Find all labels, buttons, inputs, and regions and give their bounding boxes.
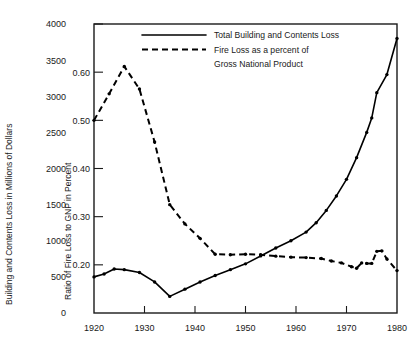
data-point bbox=[304, 256, 307, 259]
data-point bbox=[370, 116, 373, 119]
data-point bbox=[335, 194, 338, 197]
chart-legend: Total Building and Contents LossFire Los… bbox=[142, 30, 339, 69]
data-point bbox=[365, 262, 368, 265]
data-point bbox=[92, 119, 95, 122]
x-axis-ticks: 1920193019401950196019701980 bbox=[84, 323, 407, 333]
fire-loss-chart: Building and Contents Loss in Millions o… bbox=[0, 0, 409, 347]
data-point bbox=[360, 261, 363, 264]
data-point bbox=[214, 253, 217, 256]
y-tick-label-left: 0 bbox=[61, 308, 66, 318]
data-point bbox=[304, 230, 307, 233]
x-tick-label: 1950 bbox=[235, 323, 255, 333]
data-point bbox=[123, 268, 126, 271]
data-point bbox=[214, 274, 217, 277]
y-axis-ticks-left: 05001000150020002500300035004000 bbox=[46, 19, 66, 318]
data-point bbox=[153, 280, 156, 283]
data-point bbox=[107, 92, 110, 95]
data-point bbox=[113, 267, 116, 270]
data-point bbox=[168, 295, 171, 298]
data-point bbox=[375, 91, 378, 94]
data-point bbox=[198, 237, 201, 240]
data-point bbox=[365, 131, 368, 134]
y-tick-label-left: 2000 bbox=[46, 164, 66, 174]
data-point bbox=[395, 37, 398, 40]
y-tick-label-left: 4000 bbox=[46, 19, 66, 29]
data-point bbox=[345, 178, 348, 181]
y-axis-tickmarks-right bbox=[94, 24, 103, 265]
x-axis-tickmarks bbox=[145, 306, 347, 313]
y-tick-label-left: 1500 bbox=[46, 200, 66, 210]
legend-label: Fire Loss as a percent of bbox=[214, 45, 309, 55]
x-tick-label: 1970 bbox=[336, 323, 356, 333]
data-point bbox=[102, 272, 105, 275]
y-tick-label-left: 2500 bbox=[46, 128, 66, 138]
data-point bbox=[244, 253, 247, 256]
data-point bbox=[340, 261, 343, 264]
y-tick-label-left: 3000 bbox=[46, 92, 66, 102]
y-tick-label-right: 0.40 bbox=[72, 164, 90, 174]
data-point bbox=[395, 269, 398, 272]
data-point bbox=[355, 267, 358, 270]
y-tick-label-left: 3500 bbox=[46, 56, 66, 66]
legend-label: Gross National Product bbox=[214, 59, 303, 69]
legend-label: Total Building and Contents Loss bbox=[214, 30, 339, 40]
y-tick-label-right: 0.30 bbox=[72, 212, 90, 222]
data-point bbox=[183, 222, 186, 225]
data-point bbox=[168, 203, 171, 206]
data-point bbox=[274, 246, 277, 249]
data-point bbox=[229, 268, 232, 271]
x-tick-label: 1940 bbox=[185, 323, 205, 333]
data-point bbox=[385, 257, 388, 260]
x-tick-label: 1930 bbox=[134, 323, 154, 333]
series-line-total-building-contents-loss bbox=[94, 38, 397, 296]
y-tick-label-right: 0.50 bbox=[72, 116, 90, 126]
data-point bbox=[244, 262, 247, 265]
data-point bbox=[375, 250, 378, 253]
y-axis-label-left: Building and Contents Loss in Millions o… bbox=[4, 124, 14, 305]
data-point bbox=[153, 140, 156, 143]
x-tick-label: 1980 bbox=[387, 323, 407, 333]
data-point bbox=[350, 265, 353, 268]
data-point bbox=[385, 73, 388, 76]
data-point bbox=[289, 255, 292, 258]
x-tick-label: 1920 bbox=[84, 323, 104, 333]
data-point bbox=[380, 249, 383, 252]
series-layer bbox=[92, 37, 398, 298]
data-point bbox=[138, 87, 141, 90]
data-point bbox=[259, 253, 262, 256]
data-point bbox=[330, 259, 333, 262]
data-point bbox=[315, 221, 318, 224]
data-point bbox=[183, 287, 186, 290]
y-tick-label-left: 500 bbox=[51, 272, 66, 282]
chart-canvas: Building and Contents Loss in Millions o… bbox=[0, 0, 409, 347]
data-point bbox=[198, 280, 201, 283]
data-point bbox=[355, 156, 358, 159]
data-point bbox=[370, 262, 373, 265]
x-tick-label: 1960 bbox=[286, 323, 306, 333]
data-point bbox=[289, 239, 292, 242]
data-point bbox=[325, 209, 328, 212]
data-point bbox=[229, 253, 232, 256]
y-tick-label-right: 0.60 bbox=[72, 68, 90, 78]
data-point bbox=[123, 65, 126, 68]
data-point bbox=[274, 254, 277, 257]
y-tick-label-right: 0.20 bbox=[72, 260, 90, 270]
data-point bbox=[92, 275, 95, 278]
y-axis-ticks-right: 0.200.300.400.500.60 bbox=[72, 68, 90, 271]
data-point bbox=[320, 257, 323, 260]
y-tick-label-left: 1000 bbox=[46, 236, 66, 246]
data-point bbox=[138, 271, 141, 274]
